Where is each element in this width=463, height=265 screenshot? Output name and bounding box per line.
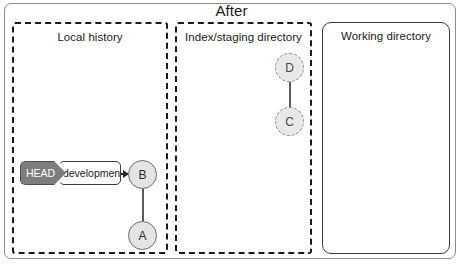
commit-node-a[interactable]: A (128, 221, 157, 250)
panel-working-directory: Working directory (322, 22, 450, 254)
panel-index-staging-title: Index/staging directory (177, 31, 310, 43)
git-states-diagram: After Local history Index/staging direct… (0, 0, 463, 265)
commit-node-d[interactable]: D (275, 53, 304, 82)
panel-local-history-title: Local history (14, 31, 166, 43)
edge-b-to-a (142, 186, 144, 224)
branch-label-development[interactable]: development (59, 161, 121, 185)
commit-node-b[interactable]: B (128, 160, 157, 189)
panel-working-directory-title: Working directory (323, 30, 449, 42)
panel-local-history: Local history (12, 22, 168, 254)
edge-d-to-c (289, 80, 291, 110)
page-title: After (0, 2, 463, 19)
commit-node-c[interactable]: C (275, 107, 304, 136)
